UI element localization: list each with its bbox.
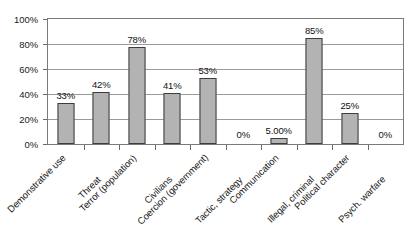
x-axis-tick-mark [226,145,227,150]
x-axis-category-label: Demonstrative use [5,152,68,215]
x-axis-tick-mark [261,145,262,150]
x-axis-tick-mark [119,145,120,150]
x-axis-category-label: Psych. warfare [336,174,387,225]
x-axis: Demonstrative useThreatTerror (populatio… [0,0,417,251]
x-axis-tick-mark [190,145,191,150]
bar-chart: 0%20%40%60%80%100% 33%42%78%41%53%0%5.00… [0,0,417,251]
x-axis-tick-mark [332,145,333,150]
x-axis-tick-mark [368,145,369,150]
x-axis-tick-mark [84,145,85,150]
x-axis-tick-mark [297,145,298,150]
x-axis-tick-mark [155,145,156,150]
